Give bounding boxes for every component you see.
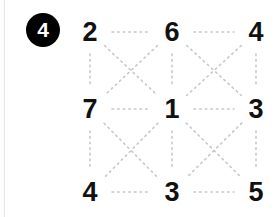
grid-node-r1c1: 1 — [164, 96, 179, 123]
grid-node-r0c0: 2 — [82, 19, 97, 46]
step-badge: 4 — [26, 13, 60, 47]
grid-node-r0c2: 4 — [248, 19, 263, 46]
grid-node-r1c2: 3 — [248, 96, 263, 123]
grid-node-r2c0: 4 — [82, 179, 97, 206]
grid-node-r0c1: 6 — [164, 19, 179, 46]
puzzle-figure: 264713435 4 — [0, 0, 278, 217]
grid-node-r1c0: 7 — [82, 96, 97, 123]
grid-node-r2c2: 5 — [248, 179, 263, 206]
grid-node-r2c1: 3 — [164, 179, 179, 206]
